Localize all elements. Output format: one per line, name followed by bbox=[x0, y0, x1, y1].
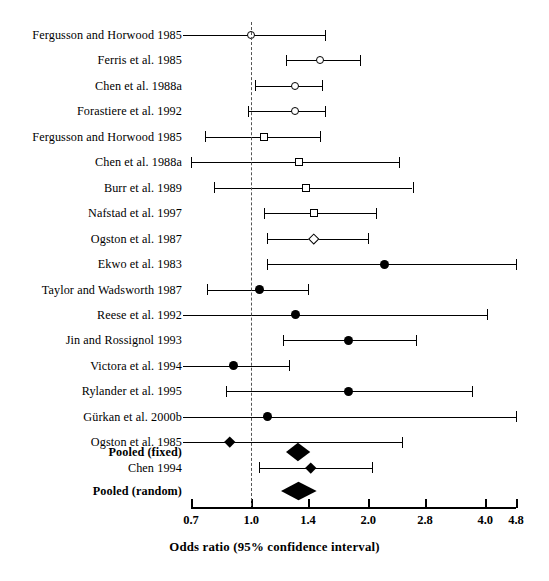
point-estimate-marker bbox=[224, 437, 235, 448]
ci-cap-upper bbox=[516, 259, 517, 270]
ci-cap-lower bbox=[191, 157, 192, 168]
x-axis-line bbox=[191, 507, 516, 509]
ci-cap-upper bbox=[360, 55, 361, 66]
x-axis-tick-label: 1.4 bbox=[300, 513, 316, 528]
point-estimate-marker bbox=[344, 336, 353, 345]
x-axis-tick bbox=[425, 499, 427, 508]
x-axis-tick bbox=[516, 499, 518, 508]
confidence-interval-line bbox=[267, 264, 516, 265]
ci-cap-upper bbox=[413, 182, 414, 193]
study-label: Ekwo et al. 1983 bbox=[0, 257, 182, 271]
ci-cap-upper bbox=[325, 106, 326, 117]
ci-cap-upper bbox=[308, 284, 309, 295]
study-label: Ferris et al. 1985 bbox=[0, 53, 182, 67]
ci-cap-upper bbox=[487, 309, 488, 320]
ci-cap-upper bbox=[325, 30, 326, 41]
x-axis-tick-label: 0.7 bbox=[183, 513, 199, 528]
pooled-label: Pooled (random) bbox=[0, 484, 182, 498]
ci-cap-upper bbox=[402, 437, 403, 448]
confidence-interval-line bbox=[214, 188, 413, 189]
study-label: Gürkan et al. 2000b bbox=[0, 410, 182, 424]
ci-cap-upper bbox=[368, 233, 369, 244]
confidence-interval-line bbox=[255, 86, 322, 87]
ci-cap-upper bbox=[289, 360, 290, 371]
ci-cap-lower bbox=[255, 80, 256, 91]
ci-cap-lower bbox=[286, 55, 287, 66]
ci-cap-lower bbox=[283, 335, 284, 346]
ci-cap-lower bbox=[259, 462, 260, 473]
ci-cap-lower bbox=[214, 182, 215, 193]
confidence-interval-line bbox=[183, 417, 516, 418]
study-label: Victora et al. 1994 bbox=[0, 359, 182, 373]
point-estimate-marker bbox=[316, 56, 324, 64]
x-axis-tick-label: 4.0 bbox=[477, 513, 493, 528]
ci-cap-upper bbox=[399, 157, 400, 168]
confidence-interval-line bbox=[183, 315, 487, 316]
x-axis-tick bbox=[485, 499, 487, 508]
x-axis-tick bbox=[308, 499, 310, 508]
ci-cap-upper bbox=[322, 80, 323, 91]
study-label: Chen et al. 1988a bbox=[0, 79, 182, 93]
study-label: Fergusson and Horwood 1985 bbox=[0, 130, 182, 144]
ci-cap-lower bbox=[264, 208, 265, 219]
x-axis-tick-label: 2.8 bbox=[417, 513, 433, 528]
ci-cap-lower bbox=[226, 386, 227, 397]
ci-cap-upper bbox=[472, 386, 473, 397]
point-estimate-marker bbox=[291, 310, 300, 319]
point-estimate-marker bbox=[263, 412, 272, 421]
point-estimate-marker bbox=[229, 361, 238, 370]
ci-cap-lower bbox=[205, 131, 206, 142]
ci-cap-upper bbox=[372, 462, 373, 473]
study-label: Fergusson and Horwood 1985 bbox=[0, 28, 182, 42]
study-label: Burr et al. 1989 bbox=[0, 181, 182, 195]
confidence-interval-line bbox=[248, 111, 325, 112]
ci-cap-lower bbox=[267, 259, 268, 270]
study-label: Forastiere et al. 1992 bbox=[0, 104, 182, 118]
ci-cap-lower bbox=[267, 233, 268, 244]
null-reference-line bbox=[251, 22, 252, 506]
point-estimate-marker bbox=[344, 387, 353, 396]
point-estimate-marker bbox=[291, 82, 299, 90]
point-estimate-marker bbox=[295, 158, 303, 166]
pooled-label: Pooled (fixed) bbox=[0, 445, 182, 459]
study-label: Ogston et al. 1987 bbox=[0, 232, 182, 246]
point-estimate-marker bbox=[291, 107, 299, 115]
x-axis-tick-label: 2.0 bbox=[360, 513, 376, 528]
point-estimate-marker bbox=[260, 133, 268, 141]
point-estimate-marker bbox=[380, 260, 389, 269]
ci-cap-upper bbox=[320, 131, 321, 142]
study-label: Taylor and Wadsworth 1987 bbox=[0, 283, 182, 297]
ci-cap-upper bbox=[416, 335, 417, 346]
study-label: Jin and Rossignol 1993 bbox=[0, 333, 182, 347]
ci-cap-upper bbox=[516, 411, 517, 422]
x-axis-tick-label: 4.8 bbox=[508, 513, 524, 528]
confidence-interval-line bbox=[264, 213, 376, 214]
pooled-estimate-diamond bbox=[282, 439, 314, 465]
pooled-estimate-diamond bbox=[277, 478, 321, 504]
x-axis-tick bbox=[368, 499, 370, 508]
x-axis-tick bbox=[191, 499, 193, 508]
point-estimate-marker bbox=[309, 233, 320, 244]
ci-cap-lower bbox=[207, 284, 208, 295]
point-estimate-marker bbox=[302, 184, 310, 192]
study-label: Rylander et al. 1995 bbox=[0, 384, 182, 398]
x-axis-title: Odds ratio (95% confidence interval) bbox=[0, 540, 549, 555]
study-label: Reese et al. 1992 bbox=[0, 308, 182, 322]
study-label: Chen 1994 bbox=[0, 461, 182, 475]
point-estimate-marker bbox=[310, 209, 318, 217]
ci-cap-upper bbox=[376, 208, 377, 219]
study-label: Nafstad et al. 1997 bbox=[0, 206, 182, 220]
point-estimate-marker bbox=[255, 285, 264, 294]
x-axis-tick-label: 1.0 bbox=[243, 513, 259, 528]
forest-plot: Fergusson and Horwood 1985Ferris et al. … bbox=[0, 0, 549, 581]
ci-cap-lower bbox=[248, 106, 249, 117]
study-label: Chen et al. 1988a bbox=[0, 155, 182, 169]
